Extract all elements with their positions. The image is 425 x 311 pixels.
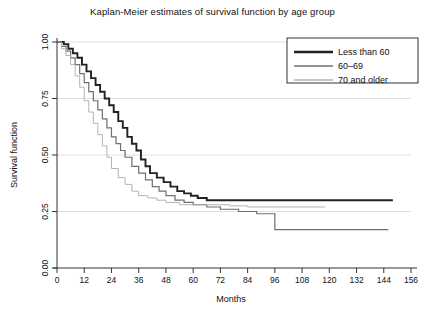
y-tick-label: 1.00 [40,33,50,50]
survival-plot: 01224364860728496108120132144156 0.000.2… [0,0,425,311]
x-tick-label: 0 [55,275,60,285]
x-tick-label: 60 [188,275,198,285]
legend-label-1: 60–69 [338,61,363,71]
x-tick-label: 132 [349,275,363,285]
figure-container: Kaplan-Meier estimates of survival funct… [0,0,425,311]
x-tick-label: 24 [107,275,117,285]
x-tick-label: 48 [161,275,171,285]
x-tick-label: 72 [216,275,226,285]
x-tick-label: 156 [404,275,418,285]
y-axis-ticks: 0.000.250.500.751.00 [40,33,57,276]
x-tick-label: 12 [79,275,89,285]
x-tick-label: 96 [270,275,280,285]
x-tick-label: 144 [377,275,391,285]
legend-label-0: Less than 60 [338,47,390,57]
y-tick-label: 0.00 [40,259,50,276]
legend-label-2: 70 and older [338,75,388,85]
legend: Less than 6060–6970 and older [287,38,418,85]
y-tick-label: 0.50 [40,146,50,163]
x-tick-label: 84 [243,275,253,285]
y-tick-label: 0.75 [40,90,50,107]
x-tick-label: 120 [322,275,336,285]
x-axis-ticks: 01224364860728496108120132144156 [55,268,419,285]
curve-series-2 [57,42,325,207]
y-axis-title: Survival function [9,122,19,188]
x-axis-title: Months [216,294,246,304]
x-tick-label: 36 [134,275,144,285]
x-tick-label: 108 [295,275,309,285]
y-tick-label: 0.25 [40,203,50,220]
